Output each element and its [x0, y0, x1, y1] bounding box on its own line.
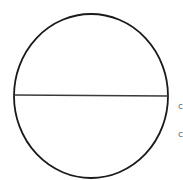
circle-diagram — [0, 0, 183, 180]
edge-label-bottom: c — [178, 130, 183, 139]
edge-label-top: c — [178, 102, 183, 111]
horizontal-divider — [13, 95, 168, 96]
